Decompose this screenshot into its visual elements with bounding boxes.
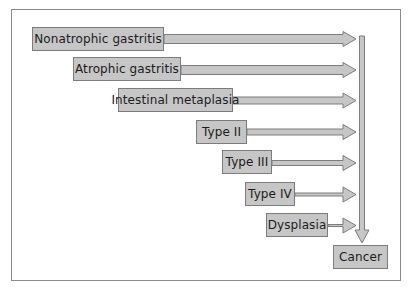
stage-label: Type IV	[248, 187, 292, 201]
stage-type-iv: Type IV	[245, 182, 295, 206]
arrow-right-icon	[328, 218, 356, 233]
stage-nonatrophic-gastritis: Nonatrophic gastritis	[32, 27, 164, 51]
stage-intestinal-metaplasia: Intestinal metaplasia	[118, 88, 233, 112]
arrow-right-icon	[233, 93, 356, 108]
stage-dysplasia: Dysplasia	[266, 213, 328, 237]
arrow-right-icon	[181, 63, 356, 78]
stage-label: Type II	[202, 125, 241, 139]
stage-label: Nonatrophic gastritis	[34, 32, 162, 46]
outcome-cancer: Cancer	[333, 245, 388, 269]
stage-label: Atrophic gastritis	[75, 62, 179, 76]
arrow-down-icon	[355, 36, 369, 243]
stage-type-iii: Type III	[222, 150, 272, 174]
stage-type-ii: Type II	[196, 120, 247, 144]
outcome-label: Cancer	[339, 250, 382, 264]
stage-label: Intestinal metaplasia	[111, 93, 239, 107]
arrow-right-icon	[295, 187, 356, 202]
stage-label: Dysplasia	[268, 218, 327, 232]
arrow-right-icon	[272, 156, 356, 171]
stage-label: Type III	[226, 155, 269, 169]
arrow-right-icon	[164, 32, 356, 47]
stage-atrophic-gastritis: Atrophic gastritis	[73, 57, 181, 81]
arrow-right-icon	[247, 125, 356, 140]
